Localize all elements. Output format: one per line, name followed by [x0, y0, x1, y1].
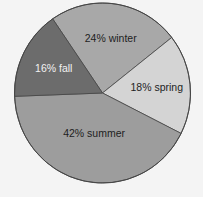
slice-label-winter: 24% winter	[85, 32, 137, 44]
slice-label-fall: 16% fall	[35, 62, 72, 74]
slice-label-summer: 42% summer	[63, 127, 125, 139]
slice-label-spring: 18% spring	[131, 81, 184, 93]
pie-chart: 24% winter18% spring42% summer16% fall	[0, 0, 203, 197]
